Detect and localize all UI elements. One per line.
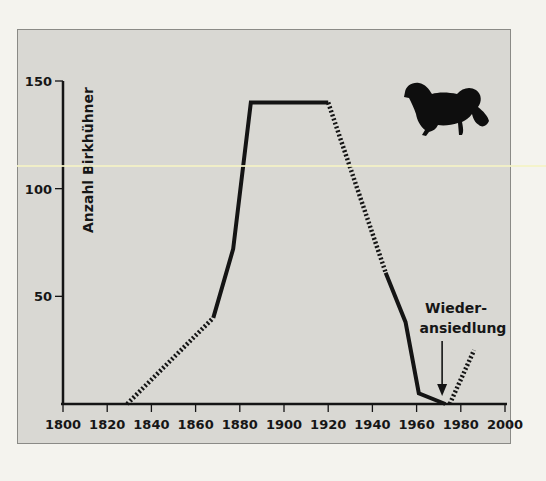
y-tick-label: 150	[25, 74, 52, 89]
x-ticks: 1800182018401860188019001920194019601980…	[45, 404, 523, 432]
axes	[61, 81, 507, 404]
x-tick-label: 1800	[45, 417, 81, 432]
x-tick-label: 1960	[399, 417, 435, 432]
x-tick-label: 1940	[354, 417, 390, 432]
annotation-text-line-2: ansiedlung	[420, 320, 507, 336]
x-tick-label: 1860	[178, 417, 214, 432]
annotation-arrowhead	[437, 384, 447, 396]
series-line-reintroduction	[450, 350, 474, 404]
y-ticks: 50100150	[25, 74, 63, 304]
x-tick-label: 1820	[89, 417, 125, 432]
y-tick-label: 100	[25, 182, 52, 197]
y-axis-label: Anzahl Birkhühner	[80, 87, 96, 233]
grouse-silhouette-icon	[404, 83, 489, 136]
annotation-reintroduction: Wieder- ansiedlung	[420, 300, 507, 396]
scan-line	[17, 165, 546, 167]
x-tick-label: 1840	[133, 417, 169, 432]
series-group	[127, 103, 474, 404]
series-line-documented-rise	[213, 103, 328, 318]
x-tick-label: 1900	[266, 417, 302, 432]
y-tick-label: 50	[34, 289, 52, 304]
series-line-estimated-decline	[328, 103, 385, 273]
x-tick-label: 1980	[443, 417, 479, 432]
series-line-documented-decline	[386, 273, 446, 404]
series-line-estimated-early	[127, 318, 213, 404]
x-tick-label: 1920	[310, 417, 346, 432]
annotation-text-line-1: Wieder-	[425, 300, 487, 316]
x-tick-label: 2000	[487, 417, 523, 432]
chart: 1800182018401860188019001920194019601980…	[0, 0, 546, 481]
x-tick-label: 1880	[222, 417, 258, 432]
